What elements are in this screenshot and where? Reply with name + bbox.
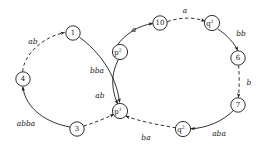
node-q2[interactable]: q2 xyxy=(175,121,190,136)
node-6-label: 6 xyxy=(236,54,241,62)
node-layer: 1 4 3 p2 p1 xyxy=(16,15,245,136)
node-3[interactable]: 3 xyxy=(70,122,84,136)
node-p1[interactable]: p1 xyxy=(112,103,127,118)
graph-svg: 1 4 3 p2 p1 xyxy=(0,0,259,146)
edge-label-3-to-p1: ab xyxy=(95,91,104,100)
node-4[interactable]: 4 xyxy=(16,72,30,86)
edge-label-q2-to-p1: ba xyxy=(141,133,150,142)
edge-6-to-7 xyxy=(238,65,239,97)
node-7-label: 7 xyxy=(236,101,240,109)
edge-3-to-p1 xyxy=(84,114,114,126)
edge-7-to-q2 xyxy=(191,111,233,129)
edge-layer xyxy=(23,18,240,129)
edge-q2-to-p1 xyxy=(126,116,176,128)
node-10[interactable]: 10 xyxy=(153,16,167,30)
diagram-canvas: 1 4 3 p2 p1 xyxy=(0,0,259,146)
node-7[interactable]: 7 xyxy=(231,98,245,112)
edge-p2-to-p1 xyxy=(113,60,119,104)
node-1[interactable]: 1 xyxy=(66,26,80,40)
edge-label-7-to-q2: aba xyxy=(212,129,226,138)
node-p2[interactable]: p2 xyxy=(112,44,127,59)
edge-label-1-to-p1: bba xyxy=(90,66,104,75)
node-q1[interactable]: q1 xyxy=(204,15,219,30)
edge-label-4-to-1: ab xyxy=(28,37,37,46)
edge-label-10-to-q1: a xyxy=(183,6,187,15)
edge-label-p2-to-10: a xyxy=(132,25,136,34)
node-1-label: 1 xyxy=(71,29,75,37)
edge-label-3-to-4: abba xyxy=(17,119,36,128)
edge-label-q1-to-6: bb xyxy=(236,29,246,38)
node-4-label: 4 xyxy=(21,75,26,83)
node-10-label: 10 xyxy=(156,19,165,27)
edge-q1-to-6 xyxy=(218,29,238,51)
edge-label-6-to-7: b xyxy=(247,78,252,87)
node-3-label: 3 xyxy=(75,125,79,133)
node-6[interactable]: 6 xyxy=(231,51,245,65)
edge-10-to-q1 xyxy=(167,18,204,22)
